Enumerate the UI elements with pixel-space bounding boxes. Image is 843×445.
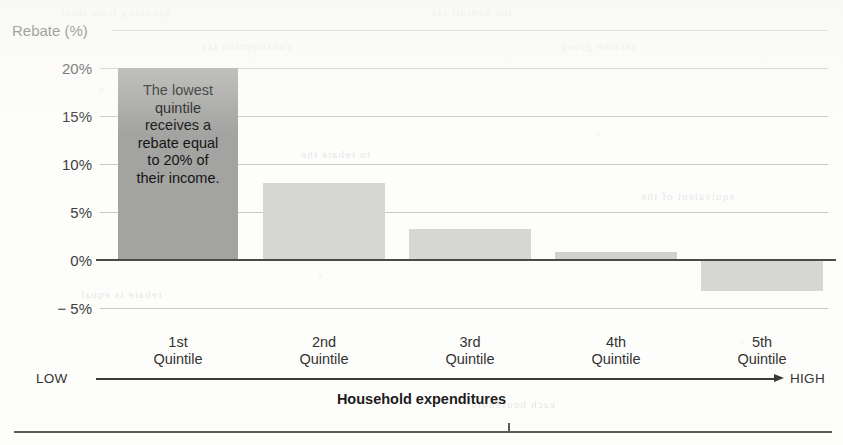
- bar-chart-plot: Rebate (%) 20% 15% 10% 5% 0% − 5% The lo…: [0, 0, 843, 445]
- page-bottom-tick: [508, 423, 510, 432]
- range-arrow-line: [96, 378, 776, 380]
- range-high-label: HIGH: [790, 371, 825, 386]
- zero-axis-line: [96, 259, 836, 261]
- x-axis-title: Household expenditures: [0, 391, 843, 407]
- expenditure-range-axis: LOW HIGH Household expenditures: [0, 0, 843, 445]
- range-low-label: LOW: [36, 371, 68, 386]
- page-bottom-rule: [14, 431, 832, 433]
- range-arrow-head-icon: [774, 374, 784, 382]
- chart-page: grouping from their the overall tax cons…: [0, 0, 843, 445]
